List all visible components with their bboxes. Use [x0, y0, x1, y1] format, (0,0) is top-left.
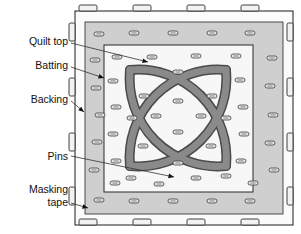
- pin: [173, 130, 183, 134]
- pin: [173, 99, 183, 103]
- pin: [267, 56, 277, 60]
- masking-tape-left: [69, 187, 75, 205]
- pin: [207, 94, 217, 98]
- pin: [129, 31, 139, 35]
- pin: [173, 70, 183, 74]
- label-batting: Batting: [35, 59, 68, 71]
- pin: [139, 94, 149, 98]
- pin: [265, 141, 275, 145]
- pin: [108, 132, 118, 136]
- pin: [138, 144, 148, 148]
- masking-tape-top: [79, 5, 97, 11]
- pin: [206, 144, 216, 148]
- masking-tape-left: [69, 78, 75, 96]
- masking-tape-right: [287, 78, 293, 96]
- masking-tape-left: [69, 133, 75, 151]
- pin: [108, 79, 118, 83]
- pin: [238, 105, 248, 109]
- pin: [154, 182, 164, 186]
- quilt-basting-diagram: Quilt topBattingBackingPinsMaskingtape: [0, 0, 301, 234]
- label-masking-2: tape: [48, 196, 69, 208]
- pin: [268, 113, 278, 117]
- pin: [236, 159, 246, 163]
- pin: [94, 198, 104, 202]
- pin: [235, 78, 245, 82]
- label-pins: Pins: [48, 150, 68, 162]
- pin: [265, 84, 275, 88]
- pin: [129, 199, 139, 203]
- pin: [147, 55, 157, 59]
- pin: [221, 174, 231, 178]
- pin: [94, 32, 104, 36]
- pin: [191, 176, 201, 180]
- pin: [95, 113, 105, 117]
- label-group: Quilt topBattingBackingPinsMaskingtape: [29, 35, 68, 208]
- masking-tape-bottom: [133, 219, 151, 225]
- pin: [207, 199, 217, 203]
- masking-tape-bottom: [187, 219, 205, 225]
- pin: [126, 176, 136, 180]
- pin: [196, 114, 206, 118]
- pin: [248, 181, 258, 185]
- pin: [91, 86, 101, 90]
- masking-tape-right: [287, 187, 293, 205]
- pin: [245, 199, 255, 203]
- pin: [92, 140, 102, 144]
- pin: [207, 31, 217, 35]
- masking-tape-top: [187, 5, 205, 11]
- pin: [168, 31, 178, 35]
- masking-tape-right: [287, 133, 293, 151]
- pin: [168, 199, 178, 203]
- pin: [245, 31, 255, 35]
- pin: [191, 54, 201, 58]
- layer-stack: [75, 11, 293, 225]
- label-masking-1: Masking: [29, 183, 68, 195]
- pin: [151, 114, 161, 118]
- pin: [90, 58, 100, 62]
- masking-tape-right: [287, 23, 293, 41]
- label-quilt-top: Quilt top: [29, 35, 68, 47]
- pin: [173, 161, 183, 165]
- pin: [269, 168, 279, 172]
- pin: [239, 132, 249, 136]
- pin: [89, 168, 99, 172]
- masking-tape-top: [241, 5, 259, 11]
- masking-tape-top: [133, 5, 151, 11]
- pin: [110, 181, 120, 185]
- pin: [111, 105, 121, 109]
- pin: [221, 116, 231, 120]
- masking-tape-bottom: [241, 219, 259, 225]
- pin: [127, 116, 137, 120]
- masking-tape-bottom: [79, 219, 97, 225]
- pin: [111, 159, 121, 163]
- label-backing: Backing: [31, 93, 69, 105]
- diagram-canvas: Quilt topBattingBackingPinsMaskingtape: [0, 0, 301, 234]
- pin: [231, 54, 241, 58]
- masking-tape-left: [69, 23, 75, 41]
